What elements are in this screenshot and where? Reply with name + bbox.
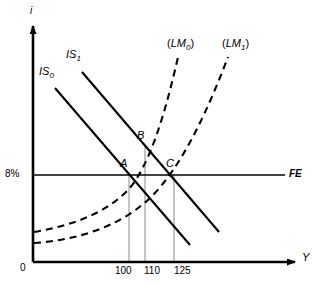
point-a-label: A (120, 158, 127, 169)
is1-label: IS1 (66, 49, 81, 63)
islm-figure: i Y 0 8% IS0 IS1 (LM0) (LM1) FE A B C 10… (0, 0, 325, 286)
is0-label: IS0 (39, 66, 54, 80)
lm1-label: (LM1) (222, 38, 249, 52)
origin-label: 0 (20, 263, 26, 273)
x-tick-110: 110 (144, 266, 160, 276)
lm1-curve (34, 57, 228, 243)
point-b-label: B (137, 130, 144, 141)
islm-chart-canvas (0, 0, 325, 286)
lm1-label-text: LM (226, 37, 241, 49)
point-c-label: C (166, 158, 174, 169)
is1-label-text: IS (66, 48, 76, 60)
fe-label: FE (289, 169, 302, 179)
x-tick-125: 125 (174, 266, 191, 276)
x-tick-100: 100 (115, 266, 132, 276)
lm0-label: (LM0) (167, 38, 194, 52)
is1-label-sub: 1 (76, 54, 80, 63)
lm0-label-close: ) (190, 37, 194, 49)
interest-rate-label: 8% (5, 169, 19, 179)
y-axis-label: i (30, 6, 32, 16)
is1-curve (82, 72, 219, 232)
is0-label-text: IS (39, 65, 49, 77)
lm1-label-close: ) (245, 37, 249, 49)
x-axis-label: Y (302, 252, 309, 263)
lm0-label-text: LM (171, 37, 186, 49)
is0-label-sub: 0 (49, 71, 53, 80)
